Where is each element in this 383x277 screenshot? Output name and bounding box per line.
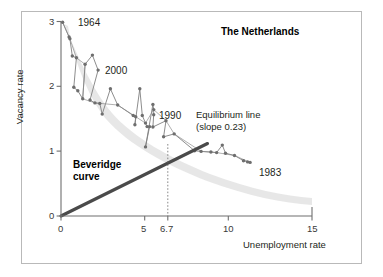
y-tick-label-0: 0 xyxy=(49,211,54,221)
beveridge-curve-label-line1: Beveridge xyxy=(73,160,121,170)
axes xyxy=(57,22,312,221)
equilibrium-line-label-line1: Equilibrium line xyxy=(196,110,260,121)
x-tick-label-10: 10 xyxy=(223,224,234,234)
x-tick-label-15: 15 xyxy=(307,224,318,234)
annotation-1990: 1990 xyxy=(159,111,181,121)
equilibrium-line-label-line2: (slope 0.23) xyxy=(196,122,246,133)
y-tick-label-2: 2 xyxy=(49,81,54,91)
chart-canvas xyxy=(0,0,383,277)
x-tick-label-0: 0 xyxy=(58,224,63,234)
annotation-1983: 1983 xyxy=(259,168,281,178)
x-axis-title: Unemployment rate xyxy=(243,240,326,250)
x-tick-label-5: 5 xyxy=(141,224,146,234)
figure-container: 3 2 1 0 0 5 6.7 10 15 Vacancy rate Unemp… xyxy=(0,0,383,277)
y-axis-title: Vacancy rate xyxy=(15,57,25,137)
beveridge-curve-label-line2: curve xyxy=(73,172,100,182)
annotation-1964: 1964 xyxy=(78,18,100,28)
y-tick-label-1: 1 xyxy=(49,146,54,156)
chart-title-netherlands: The Netherlands xyxy=(221,27,299,37)
annotation-2000: 2000 xyxy=(105,66,127,76)
x-tick-label-6-7: 6.7 xyxy=(160,224,173,234)
y-tick-label-3: 3 xyxy=(49,17,54,27)
